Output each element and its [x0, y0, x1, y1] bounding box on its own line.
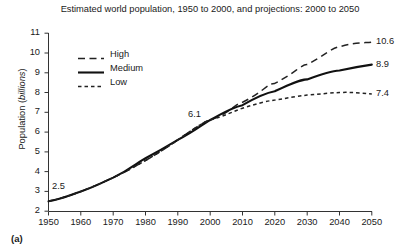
x-tick-label: 1960	[64, 217, 98, 227]
y-tick-label: 8	[24, 87, 40, 97]
y-tick-label: 5	[24, 146, 40, 156]
x-tick-label: 2010	[226, 217, 260, 227]
legend-swatch-high-icon	[78, 49, 104, 59]
population-projection-chart: Estimated world population, 1950 to 2000…	[0, 0, 413, 252]
y-tick-label: 4	[24, 166, 40, 176]
legend-item-medium: Medium	[78, 61, 170, 75]
chart-legend: High Medium Low	[78, 47, 170, 89]
legend-item-high: High	[78, 47, 170, 61]
legend-swatch-medium-icon	[78, 63, 104, 73]
x-tick-label: 2050	[355, 217, 389, 227]
legend-label-high: High	[110, 49, 129, 59]
x-axis-ticks	[49, 212, 372, 216]
legend-item-low: Low	[78, 75, 170, 89]
y-tick-label: 11	[24, 27, 40, 37]
y-tick-label: 9	[24, 67, 40, 77]
x-tick-label: 2030	[290, 217, 324, 227]
annotation-branch-value: 6.1	[188, 109, 201, 119]
y-tick-label: 6	[24, 126, 40, 136]
legend-swatch-low-icon	[78, 77, 104, 87]
legend-label-low: Low	[110, 77, 127, 87]
y-tick-label: 7	[24, 106, 40, 116]
plot-area	[0, 0, 413, 252]
annotation-high-end-value: 10.6	[376, 36, 394, 46]
x-tick-label: 1970	[96, 217, 130, 227]
x-tick-label: 2000	[193, 217, 227, 227]
y-tick-label: 2	[24, 205, 40, 215]
x-tick-label: 1950	[32, 217, 66, 227]
figure-caption: (a)	[11, 233, 23, 244]
y-tick-label: 10	[24, 47, 40, 57]
x-tick-label: 1980	[129, 217, 163, 227]
annotation-medium-end-value: 8.9	[376, 59, 389, 69]
x-tick-label: 2020	[258, 217, 292, 227]
x-tick-label: 1990	[161, 217, 195, 227]
y-tick-label: 3	[24, 185, 40, 195]
legend-label-medium: Medium	[110, 63, 143, 73]
annotation-start-value: 2.5	[52, 181, 65, 191]
y-axis-ticks	[45, 33, 49, 211]
annotation-low-end-value: 7.4	[376, 88, 389, 98]
x-tick-label: 2040	[323, 217, 357, 227]
